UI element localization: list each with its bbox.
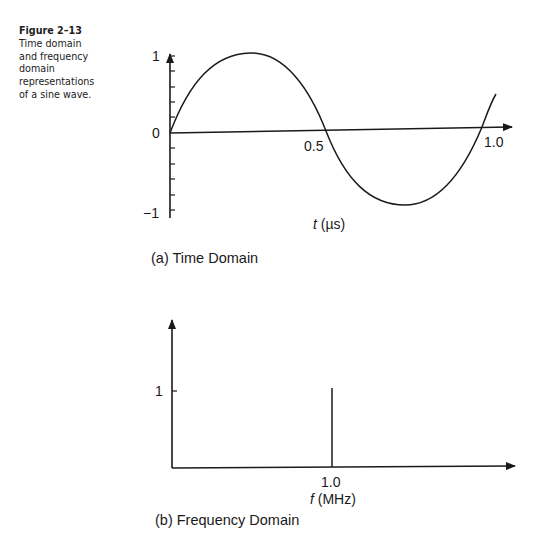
time-domain-panel-label: (a) Time Domain xyxy=(151,250,258,266)
time-domain-chart: 1 0 −1 0.5 1.0 t (µs) (a) Time Domain xyxy=(143,48,512,266)
freq-x-axis xyxy=(172,466,515,468)
frequency-domain-panel-label: (b) Frequency Domain xyxy=(155,512,299,528)
freq-x-label-1-0: 1.0 xyxy=(321,474,341,490)
time-unit: (µs) xyxy=(317,216,345,232)
time-x-label-0-5: 0.5 xyxy=(304,138,324,154)
time-y-label-minus-1: −1 xyxy=(143,205,159,221)
sine-wave-curve xyxy=(170,53,496,205)
time-y-label-0: 0 xyxy=(152,125,160,141)
freq-y-label-1: 1 xyxy=(155,383,163,399)
freq-unit: (MHz) xyxy=(314,491,356,507)
time-x-axis xyxy=(170,127,512,133)
frequency-domain-chart: 1 1.0 f (MHz) (b) Frequency Domain xyxy=(155,320,515,528)
time-x-axis-title: t (µs) xyxy=(313,216,345,232)
freq-x-axis-title: f (MHz) xyxy=(310,491,356,507)
time-x-label-1-0: 1.0 xyxy=(484,134,504,150)
figure-canvas: 1 0 −1 0.5 1.0 t (µs) (a) Time Domain 1 … xyxy=(0,0,546,556)
time-y-label-1: 1 xyxy=(152,48,160,64)
